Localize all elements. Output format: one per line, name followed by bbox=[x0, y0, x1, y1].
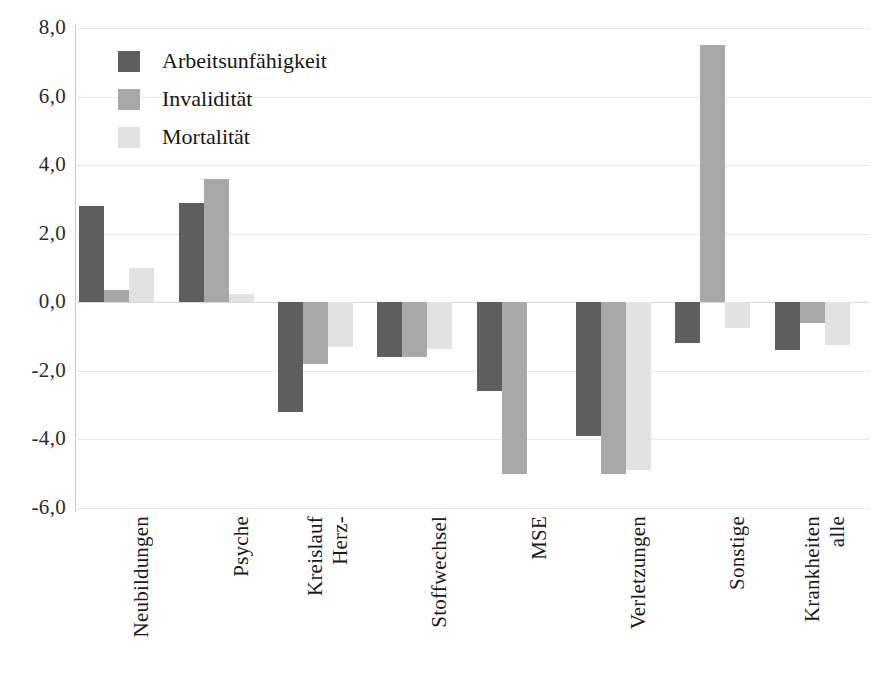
x-axis-tick-label-line: Stoffwechsel bbox=[427, 516, 452, 628]
y-axis-tick-labels: 8,06,04,02,00,0-2,0-4,0-6,0 bbox=[0, 28, 66, 508]
bar bbox=[278, 302, 303, 412]
bar bbox=[626, 302, 651, 470]
y-axis-tick-label: -2,0 bbox=[4, 360, 66, 381]
y-axis-tick-label: 4,0 bbox=[4, 154, 66, 175]
bar-group bbox=[377, 28, 452, 508]
bar bbox=[825, 302, 850, 345]
bar bbox=[427, 302, 452, 348]
y-axis-tick-label: -6,0 bbox=[4, 497, 66, 518]
chart-legend: ArbeitsunfähigkeitInvaliditätMortalität bbox=[118, 42, 327, 156]
x-axis-tick-label-line: Psyche bbox=[229, 516, 254, 577]
bar bbox=[725, 302, 750, 328]
y-axis-tick-label: 8,0 bbox=[4, 17, 66, 38]
bar bbox=[477, 302, 502, 391]
y-axis-tick-label: 0,0 bbox=[4, 291, 66, 312]
bar bbox=[229, 294, 254, 303]
x-axis-tick-label: alleKrankheiten bbox=[775, 516, 850, 684]
legend-item-label: Invalidität bbox=[162, 88, 252, 110]
bar bbox=[377, 302, 402, 357]
bar bbox=[402, 302, 427, 357]
x-axis-tick-label-line: Kreislauf bbox=[303, 516, 328, 596]
bar bbox=[104, 290, 129, 302]
x-axis-tick-label: Sonstige bbox=[675, 516, 750, 684]
legend-swatch-medium bbox=[118, 89, 140, 110]
bar bbox=[204, 179, 229, 302]
y-axis-tick-label: 2,0 bbox=[4, 223, 66, 244]
bar bbox=[303, 302, 328, 364]
legend-item-label: Mortalität bbox=[162, 126, 250, 148]
x-axis-tick-label: MSE bbox=[477, 516, 552, 684]
bar bbox=[179, 203, 204, 302]
bar bbox=[800, 302, 825, 323]
bar bbox=[129, 268, 154, 302]
legend-item: Mortalität bbox=[118, 118, 327, 156]
x-axis-tick-label: Herz-Kreislauf bbox=[278, 516, 353, 684]
x-axis-tick-labels: NeubildungenPsycheHerz-KreislaufStoffwec… bbox=[75, 512, 870, 684]
bar-group bbox=[675, 28, 750, 508]
bar bbox=[328, 302, 353, 347]
bar bbox=[502, 302, 527, 473]
bar bbox=[700, 45, 725, 302]
x-axis-tick-label: Stoffwechsel bbox=[377, 516, 452, 684]
bar bbox=[675, 302, 700, 343]
bar bbox=[79, 206, 104, 302]
legend-swatch-light bbox=[118, 127, 140, 148]
legend-item: Invalidität bbox=[118, 80, 327, 118]
x-axis-tick-label: Psyche bbox=[179, 516, 254, 684]
y-axis-tick-label: 6,0 bbox=[4, 86, 66, 107]
legend-swatch-dark bbox=[118, 51, 140, 72]
bar bbox=[775, 302, 800, 350]
bar bbox=[601, 302, 626, 473]
x-axis-tick-label-line: Herz- bbox=[328, 516, 353, 565]
y-axis-tick-label: -4,0 bbox=[4, 428, 66, 449]
legend-item-label: Arbeitsunfähigkeit bbox=[162, 50, 327, 72]
bar-chart: 8,06,04,02,00,0-2,0-4,0-6,0 Neubildungen… bbox=[0, 0, 873, 684]
x-axis-tick-label-line: Neubildungen bbox=[129, 516, 154, 637]
gridline bbox=[75, 508, 870, 509]
x-axis-tick-label-line: alle bbox=[825, 516, 850, 547]
x-axis-tick-label-line: Sonstige bbox=[725, 516, 750, 590]
bar-group bbox=[477, 28, 552, 508]
bar-group bbox=[775, 28, 850, 508]
bar-group bbox=[576, 28, 651, 508]
x-axis-tick-label-line: Krankheiten bbox=[800, 516, 825, 622]
x-axis-tick-label-line: MSE bbox=[527, 516, 552, 560]
x-axis-tick-label: Verletzungen bbox=[576, 516, 651, 684]
bar bbox=[576, 302, 601, 436]
legend-item: Arbeitsunfähigkeit bbox=[118, 42, 327, 80]
x-axis-tick-label: Neubildungen bbox=[79, 516, 154, 684]
x-axis-tick-label-line: Verletzungen bbox=[626, 516, 651, 629]
